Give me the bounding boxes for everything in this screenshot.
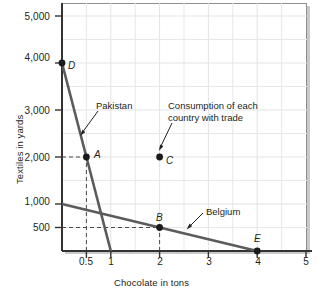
leader-line-belgium [187, 213, 203, 229]
leader-line-pakistan [80, 111, 98, 136]
data-point-a [83, 154, 90, 161]
data-point-d [59, 60, 66, 67]
leader-line-trade-note [159, 123, 172, 151]
series-label-pakistan: Pakistan [96, 100, 132, 112]
data-point-c [156, 154, 163, 161]
data-point-b [156, 224, 163, 231]
data-point-label-b: B [156, 212, 163, 223]
axis-ticks [55, 16, 306, 258]
series-label-belgium: Belgium [206, 206, 240, 218]
trade-note-line-1: Consumption of each [168, 100, 258, 112]
data-point-label-c: C [166, 155, 173, 166]
data-point-label-d: D [68, 60, 75, 71]
data-point-e [254, 248, 261, 255]
chart-canvas [0, 0, 320, 295]
trade-note-line-2: country with trade [168, 112, 243, 124]
data-point-label-a: A [94, 149, 101, 160]
chart-figure: Textiles in yards 5,000 4,000 3,000 2,00… [0, 0, 320, 295]
data-point-label-e: E [254, 233, 261, 244]
